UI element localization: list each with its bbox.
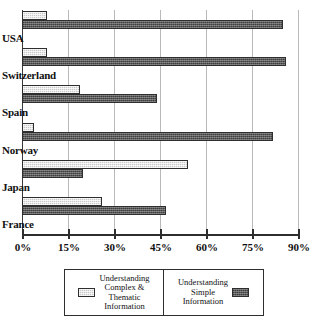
- category-label-france: France: [2, 218, 34, 230]
- bar-group-japan: [22, 159, 298, 196]
- x-tick-90: [298, 229, 300, 239]
- bar-spain-simple: [22, 94, 157, 103]
- bar-chart: 0%15%30%45%60%75%90% Understanding Compl…: [0, 0, 329, 323]
- x-tick-label-30: 30%: [104, 241, 126, 253]
- plot-area: [22, 10, 298, 233]
- category-label-switzerland: Switzerland: [2, 69, 56, 81]
- bar-group-france: [22, 196, 298, 233]
- bar-japan-simple: [22, 169, 83, 178]
- x-tick-30: [114, 229, 116, 239]
- x-tick-60: [206, 229, 208, 239]
- x-tick-15: [68, 229, 70, 239]
- bar-usa-complex: [22, 11, 47, 20]
- legend-label-complex: Understanding Complex & Thematic Informa…: [99, 274, 149, 312]
- x-tick-label-90: 90%: [288, 241, 310, 253]
- bar-france-complex: [22, 197, 102, 206]
- category-label-spain: Spain: [2, 106, 28, 118]
- bar-group-usa: [22, 10, 298, 47]
- bar-group-norway: [22, 122, 298, 159]
- bar-group-switzerland: [22, 47, 298, 84]
- x-tick-45: [160, 229, 162, 239]
- legend-item-simple: Understanding Simple Information: [164, 270, 263, 315]
- x-tick-0: [22, 229, 24, 239]
- x-tick-label-75: 75%: [242, 241, 264, 253]
- bar-norway-complex: [22, 123, 34, 132]
- dark-hatch-swatch-icon: [232, 288, 249, 297]
- bar-spain-complex: [22, 85, 80, 94]
- x-tick-label-0: 0%: [15, 241, 32, 253]
- bar-norway-simple: [22, 132, 273, 141]
- x-tick-label-15: 15%: [58, 241, 80, 253]
- light-hatch-swatch-icon: [78, 288, 95, 297]
- bar-switzerland-complex: [22, 48, 47, 57]
- bar-switzerland-simple: [22, 57, 286, 66]
- bar-japan-complex: [22, 160, 188, 169]
- chart-legend: Understanding Complex & Thematic Informa…: [64, 269, 264, 316]
- x-tick-label-45: 45%: [150, 241, 172, 253]
- category-label-norway: Norway: [2, 144, 38, 156]
- x-tick-label-60: 60%: [196, 241, 218, 253]
- legend-item-complex: Understanding Complex & Thematic Informa…: [65, 270, 164, 315]
- category-label-usa: USA: [2, 32, 23, 44]
- bar-group-spain: [22, 84, 298, 121]
- legend-label-simple: Understanding Simple Information: [178, 278, 228, 307]
- bar-france-simple: [22, 206, 166, 215]
- bar-usa-simple: [22, 20, 283, 29]
- x-tick-75: [252, 229, 254, 239]
- gridline-90: [298, 10, 299, 233]
- category-label-japan: Japan: [2, 181, 30, 193]
